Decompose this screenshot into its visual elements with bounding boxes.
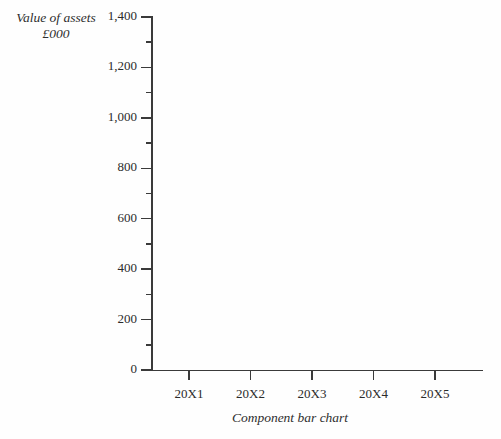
y-axis-major-tick <box>141 268 152 270</box>
y-axis-major-tick <box>141 16 152 18</box>
x-axis-tick <box>311 370 313 380</box>
y-axis-tick-label: 1,000 <box>37 109 137 125</box>
plot-area <box>152 17 483 370</box>
chart-caption: Component bar chart <box>150 410 430 426</box>
y-axis-tick-label: 1,400 <box>37 8 137 24</box>
y-axis-tick-label: 400 <box>37 260 137 276</box>
x-axis-tick-label: 20X3 <box>282 386 342 402</box>
y-axis-tick-label: 0 <box>37 361 137 377</box>
x-axis-tick <box>373 370 375 380</box>
y-axis-major-tick <box>141 117 152 119</box>
y-axis-tick-label: 200 <box>37 311 137 327</box>
y-axis-tick-label: 600 <box>37 210 137 226</box>
x-axis-tick <box>250 370 252 380</box>
y-axis-title-line-2: £000 <box>4 26 108 42</box>
y-axis-major-tick <box>141 168 152 170</box>
x-axis-tick-label: 20X4 <box>344 386 404 402</box>
y-axis-major-tick <box>141 218 152 220</box>
y-axis-major-tick <box>141 319 152 321</box>
y-axis-tick-label: 800 <box>37 159 137 175</box>
x-axis-tick-label: 20X5 <box>405 386 465 402</box>
component-bar-chart-figure: Value of assets £000 02004006008001,0001… <box>0 0 501 439</box>
y-axis-major-tick <box>141 67 152 69</box>
x-axis-tick <box>188 370 190 380</box>
y-axis-major-tick <box>141 369 152 371</box>
x-axis-tick-label: 20X2 <box>221 386 281 402</box>
y-axis-tick-label: 1,200 <box>37 58 137 74</box>
x-axis-tick <box>434 370 436 380</box>
x-axis-tick-label: 20X1 <box>159 386 219 402</box>
